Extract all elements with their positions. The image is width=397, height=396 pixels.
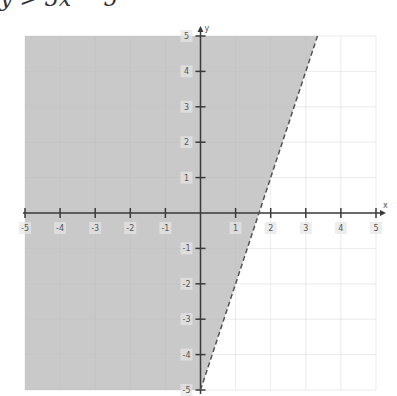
x-tick-label: 5 (373, 224, 378, 233)
x-axis-arrow-icon (380, 210, 386, 216)
x-tick-label: 1 (233, 224, 238, 233)
y-tick-label: 3 (184, 103, 189, 112)
y-tick-label: -2 (183, 280, 191, 289)
x-tick-label: 4 (338, 224, 343, 233)
y-axis-label: y (205, 24, 210, 33)
x-tick-label: 3 (303, 224, 308, 233)
y-tick-label: -1 (183, 244, 191, 253)
x-tick-label: -2 (126, 224, 134, 233)
x-tick-label: -4 (56, 224, 64, 233)
inequality-plot: xy-5-4-3-2-112345-5-4-3-2-112345 (0, 0, 397, 396)
y-tick-label: 2 (184, 138, 189, 147)
y-tick-label: 4 (184, 67, 189, 76)
y-axis-arrow-icon (198, 26, 204, 32)
y-tick-label: 5 (184, 32, 189, 41)
y-tick-label: -5 (183, 386, 191, 395)
x-axis-label: x (383, 201, 388, 210)
y-tick-label: -4 (183, 351, 191, 360)
x-tick-label: -1 (161, 224, 169, 233)
y-tick-label: -3 (183, 315, 191, 324)
x-tick-label: -5 (21, 224, 29, 233)
x-tick-label: -3 (91, 224, 99, 233)
x-tick-label: 2 (268, 224, 273, 233)
y-tick-label: 1 (184, 174, 189, 183)
